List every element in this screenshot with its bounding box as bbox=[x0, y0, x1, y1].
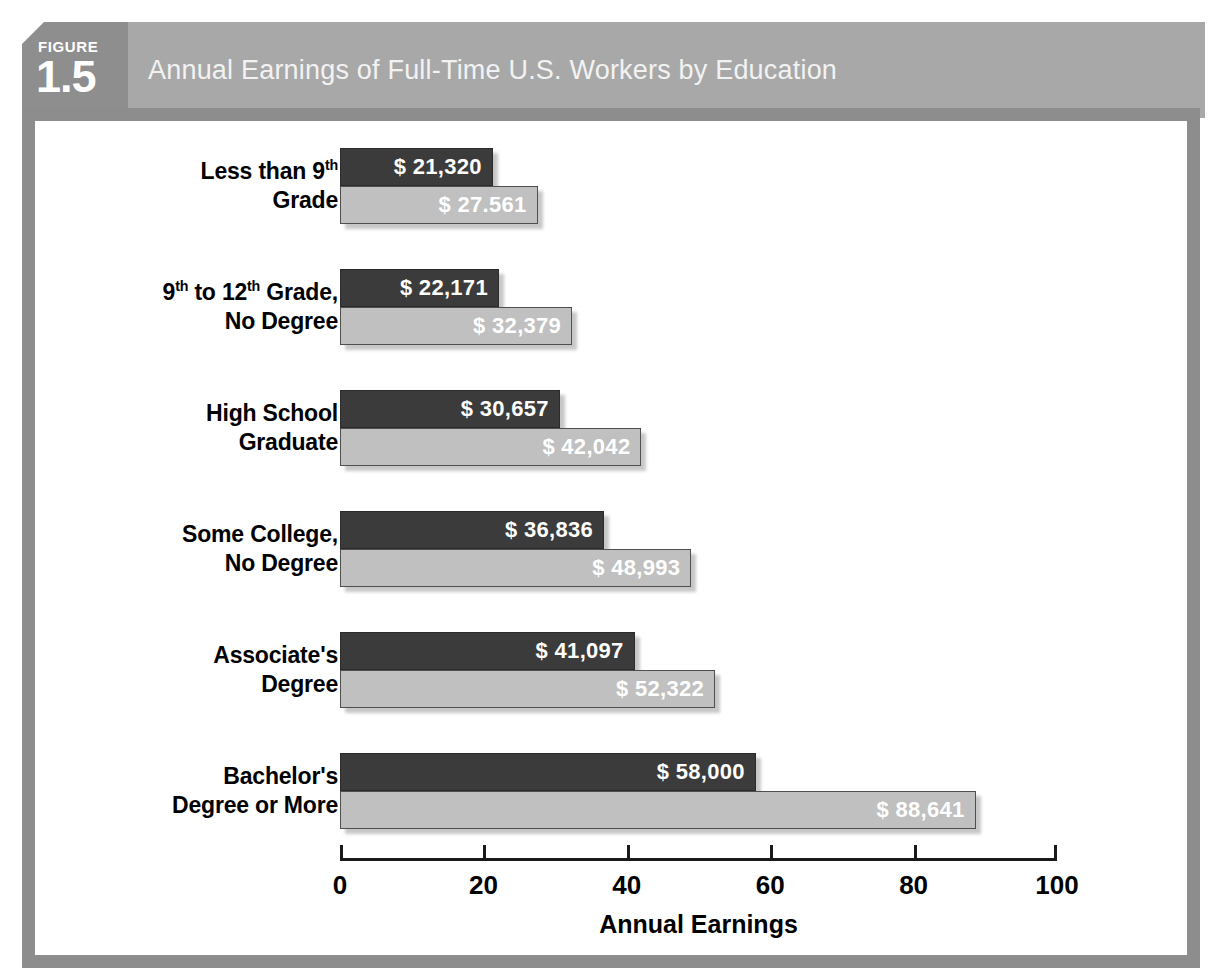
figure-number-label: 1.5 bbox=[36, 54, 96, 99]
figure-number-tab: FIGURE 1.5 bbox=[22, 22, 128, 118]
figure-title: Annual Earnings of Full-Time U.S. Worker… bbox=[148, 55, 837, 86]
chart-frame bbox=[22, 108, 1200, 968]
figure-container: Annual Earnings of Full-Time U.S. Worker… bbox=[0, 0, 1218, 979]
figure-header-band: Annual Earnings of Full-Time U.S. Worker… bbox=[120, 22, 1205, 118]
